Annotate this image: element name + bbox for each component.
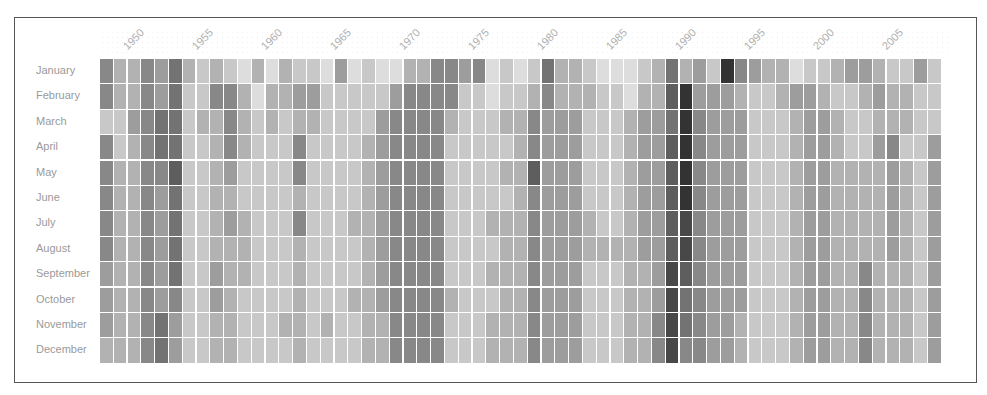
heatmap-cell [818, 59, 831, 83]
heatmap-cell [376, 161, 389, 185]
heatmap-cell [569, 211, 582, 235]
heatmap-cell [542, 237, 555, 261]
heatmap-cell [680, 262, 693, 286]
heatmap-cell [514, 186, 527, 210]
heatmap-cell [376, 338, 389, 362]
heatmap-cell [528, 84, 541, 108]
heatmap-cell [790, 84, 803, 108]
heatmap-cell [873, 288, 886, 312]
heatmap-cell [666, 288, 679, 312]
heatmap-cell [155, 84, 168, 108]
heatmap-cell [362, 161, 375, 185]
heatmap-cell [914, 161, 927, 185]
heatmap-cell [624, 110, 637, 134]
heatmap-cell [445, 313, 458, 337]
heatmap-cell [597, 161, 610, 185]
heatmap-cell [900, 288, 913, 312]
heatmap-cell [155, 211, 168, 235]
heatmap-cell [155, 262, 168, 286]
heatmap-cell [307, 135, 320, 159]
heatmap-cell [335, 313, 348, 337]
heatmap-cell [114, 211, 127, 235]
heatmap-cell [197, 338, 210, 362]
heatmap-cell [141, 161, 154, 185]
heatmap-cell [500, 186, 513, 210]
heatmap-cell [197, 262, 210, 286]
heatmap-cell [569, 288, 582, 312]
heatmap-cell [721, 186, 734, 210]
heatmap-cell [197, 59, 210, 83]
heatmap-cell [169, 262, 182, 286]
heatmap-cell [390, 110, 403, 134]
heatmap-cell [693, 211, 706, 235]
heatmap-cell [348, 262, 361, 286]
heatmap-cell [486, 59, 499, 83]
heatmap-cell [693, 262, 706, 286]
heatmap-cell [376, 186, 389, 210]
heatmap-cell [335, 338, 348, 362]
heatmap-cell [169, 110, 182, 134]
heatmap-cell [597, 135, 610, 159]
heatmap-cell [293, 135, 306, 159]
heatmap-cell [238, 110, 251, 134]
heatmap-cell [680, 338, 693, 362]
heatmap-cell [486, 313, 499, 337]
heatmap-cell [362, 135, 375, 159]
heatmap-cell [638, 84, 651, 108]
heatmap-cell [583, 313, 596, 337]
heatmap-cell [431, 161, 444, 185]
heatmap-cell [307, 59, 320, 83]
heatmap-cell [486, 338, 499, 362]
heatmap-cell [611, 186, 624, 210]
heatmap-cell [624, 313, 637, 337]
heatmap-cell [169, 338, 182, 362]
heatmap-cell [845, 262, 858, 286]
heatmap-cell [473, 84, 486, 108]
heatmap-cell [693, 59, 706, 83]
heatmap-cell [721, 288, 734, 312]
heatmap-cell [762, 110, 775, 134]
heatmap-cell [555, 110, 568, 134]
heatmap-cell [335, 59, 348, 83]
heatmap-cell [114, 161, 127, 185]
heatmap-cell [252, 288, 265, 312]
heatmap-cell [514, 135, 527, 159]
heatmap-cell [776, 161, 789, 185]
heatmap-cell [680, 161, 693, 185]
heatmap-cell [128, 59, 141, 83]
heatmap-cell [486, 135, 499, 159]
heatmap-cell [141, 237, 154, 261]
heatmap-cell [666, 110, 679, 134]
heatmap-cell [693, 237, 706, 261]
heatmap-cell [845, 161, 858, 185]
heatmap-cell [404, 313, 417, 337]
heatmap-cell [514, 288, 527, 312]
heatmap-cell [376, 288, 389, 312]
heatmap-cell [776, 84, 789, 108]
heatmap-cell [859, 237, 872, 261]
heatmap-cell [224, 211, 237, 235]
heatmap-cell [224, 288, 237, 312]
heatmap-cell [404, 84, 417, 108]
heatmap-cell [514, 110, 527, 134]
heatmap-cell [555, 135, 568, 159]
heatmap-cell [307, 211, 320, 235]
heatmap-cell [652, 161, 665, 185]
heatmap-cell [459, 186, 472, 210]
heatmap-cell [542, 186, 555, 210]
heatmap-cell [183, 135, 196, 159]
heatmap-cell [348, 59, 361, 83]
heatmap-cell [473, 313, 486, 337]
month-label: June [36, 185, 60, 210]
heatmap-cell [831, 84, 844, 108]
heatmap-cell [514, 338, 527, 362]
heatmap-cell [569, 186, 582, 210]
heatmap-cell [321, 84, 334, 108]
heatmap-cell [900, 135, 913, 159]
heatmap-cell [362, 338, 375, 362]
heatmap-cell [611, 313, 624, 337]
heatmap-cell [155, 59, 168, 83]
heatmap-cell [735, 338, 748, 362]
heatmap-cell [321, 110, 334, 134]
heatmap-cell [707, 135, 720, 159]
